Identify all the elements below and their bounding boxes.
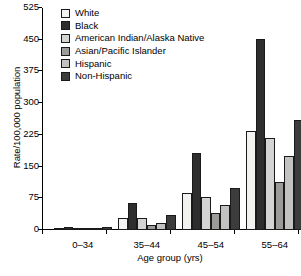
bar	[275, 182, 285, 230]
legend-label: White	[75, 8, 99, 18]
bar	[156, 223, 166, 230]
legend-swatch-icon	[61, 72, 70, 81]
x-tick-mark	[106, 230, 107, 234]
y-axis-line	[42, 8, 43, 230]
bar	[256, 39, 266, 230]
bar	[73, 228, 83, 230]
bar	[118, 218, 128, 230]
y-tick-label: 150	[5, 160, 39, 171]
y-tick-label: 375	[5, 64, 39, 75]
bar	[64, 227, 74, 230]
bar	[54, 228, 64, 230]
y-tick-label: 225	[5, 128, 39, 139]
bar	[182, 193, 192, 230]
bar	[211, 213, 221, 230]
x-tick-mark	[234, 230, 235, 234]
y-tick-label: 300	[5, 96, 39, 107]
x-tick-mark	[298, 230, 299, 234]
y-tick-label: 0	[5, 223, 39, 234]
bar	[265, 138, 275, 230]
legend-swatch-icon	[61, 34, 70, 43]
y-tick-label: 525	[5, 1, 39, 12]
x-axis-title: Age group (yrs)	[42, 252, 298, 263]
legend-item: American Indian/Alaska Native	[61, 32, 204, 45]
x-tick-label: 35–44	[134, 239, 160, 250]
legend-swatch-icon	[61, 47, 70, 56]
bar	[166, 215, 176, 230]
bar	[102, 227, 112, 230]
legend-item: Hispanic	[61, 57, 204, 70]
legend-item: Black	[61, 20, 204, 33]
x-tick-label: 0–34	[72, 239, 93, 250]
bar	[230, 188, 240, 230]
legend-swatch-icon	[61, 21, 70, 30]
bar-chart-figure: Rate/100,000 population 0751502253003754…	[0, 0, 301, 276]
x-tick-mark	[42, 230, 43, 234]
x-tick-label: 55–64	[262, 239, 288, 250]
legend-swatch-icon	[61, 9, 70, 18]
x-tick-mark	[170, 230, 171, 234]
y-tick-label: 75	[5, 191, 39, 202]
bar	[220, 205, 230, 230]
y-axis-title: Rate/100,000 population	[11, 28, 22, 208]
legend-label: American Indian/Alaska Native	[75, 33, 204, 43]
legend-item: White	[61, 7, 204, 20]
legend-label: Black	[75, 21, 98, 31]
bar	[137, 218, 147, 230]
bar	[192, 153, 202, 230]
bar	[201, 197, 211, 230]
legend-item: Asian/Pacific Islander	[61, 45, 204, 58]
bar	[294, 120, 301, 230]
bar	[147, 225, 157, 230]
legend-label: Hispanic	[75, 59, 111, 69]
legend-swatch-icon	[61, 59, 70, 68]
legend-item: Non-Hispanic	[61, 70, 204, 83]
legend-label: Asian/Pacific Islander	[75, 46, 166, 56]
y-tick-label: 450	[5, 33, 39, 44]
bar	[284, 156, 294, 230]
bar	[92, 228, 102, 230]
bar	[128, 203, 138, 230]
chart-legend: WhiteBlackAmerican Indian/Alaska NativeA…	[61, 7, 204, 83]
x-tick-label: 45–54	[198, 239, 224, 250]
bar	[83, 228, 93, 230]
legend-label: Non-Hispanic	[75, 71, 132, 81]
bar	[246, 131, 256, 230]
